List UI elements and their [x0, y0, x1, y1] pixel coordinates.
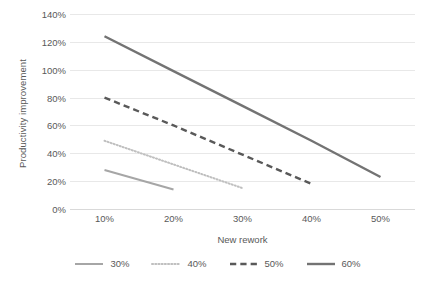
y-axis-tick-label: 140% — [18, 9, 66, 20]
x-axis-tick-label: 50% — [351, 213, 411, 224]
x-axis-tick-labels: 10%20%30%40%50% — [70, 213, 415, 229]
legend-swatch-line-icon — [151, 259, 181, 269]
legend-label: 40% — [187, 258, 206, 269]
legend-label: 60% — [342, 258, 361, 269]
y-axis-tick-label: 100% — [18, 64, 66, 75]
plot-area — [70, 14, 415, 209]
legend-item-60pct[interactable]: 60% — [306, 258, 361, 269]
y-axis-tick-label: 60% — [18, 120, 66, 131]
x-axis-tick-label: 30% — [213, 213, 273, 224]
legend-item-40pct[interactable]: 40% — [151, 258, 206, 269]
y-axis-tick-label: 0% — [18, 204, 66, 215]
x-axis-tick-label: 40% — [282, 213, 342, 224]
y-axis-tick-label: 120% — [18, 36, 66, 47]
plot-lines — [70, 14, 415, 209]
chart-container: Productivity improvement 0%20%40%60%80%1… — [0, 0, 435, 288]
legend-swatch-line-icon — [306, 259, 336, 269]
y-axis-tick-labels: 0%20%40%60%80%100%120%140% — [18, 0, 66, 288]
y-axis-tick-label: 40% — [18, 148, 66, 159]
y-axis-tick-label: 80% — [18, 92, 66, 103]
x-axis-tick-label: 10% — [75, 213, 135, 224]
chart-legend: 30%40%50%60% — [0, 258, 435, 269]
x-axis-tick-label: 20% — [144, 213, 204, 224]
y-axis-tick-label: 20% — [18, 176, 66, 187]
series-line-50pct — [105, 98, 312, 184]
gridline — [70, 209, 415, 210]
legend-swatch-line-icon — [74, 259, 104, 269]
legend-swatch-line-icon — [229, 259, 259, 269]
legend-label: 50% — [265, 258, 284, 269]
series-line-40pct — [105, 141, 243, 188]
legend-item-50pct[interactable]: 50% — [229, 258, 284, 269]
legend-label: 30% — [110, 258, 129, 269]
series-line-30pct — [105, 170, 174, 190]
x-axis-title: New rework — [70, 234, 415, 245]
legend-item-30pct[interactable]: 30% — [74, 258, 129, 269]
